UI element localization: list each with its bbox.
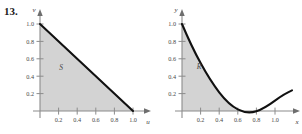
x-tick-label: 1.0 [129, 116, 137, 123]
y-tick-label: 1.0 [26, 20, 34, 27]
x-tick-label: 0.4 [215, 116, 223, 123]
x-tick-label: 0.8 [253, 116, 261, 123]
y-tick-label: 0.6 [168, 55, 176, 62]
y-tick-label: 0.4 [168, 73, 176, 80]
panel-right: 1.0 0.8 0.6 0.4 0.2 0.2 0.4 0.6 0.8 1.0 … [151, 0, 302, 134]
y-tick-label: 0.2 [168, 90, 176, 97]
x-tick-label: 0.2 [197, 116, 205, 123]
y-tick-label: 0.8 [168, 38, 176, 45]
chart-right: 1.0 0.8 0.6 0.4 0.2 0.2 0.4 0.6 0.8 1.0 … [151, 0, 302, 134]
x-tick-label: 0.8 [111, 116, 119, 123]
panel-left: 1.0 0.8 0.6 0.4 0.2 0.2 0.4 0.6 0.8 1.0 … [0, 0, 151, 134]
region-label-s: S [59, 63, 63, 72]
y-axis-label-right: y [173, 6, 178, 14]
x-tick-label: 0.4 [73, 116, 81, 123]
chart-left: 1.0 0.8 0.6 0.4 0.2 0.2 0.4 0.6 0.8 1.0 … [0, 0, 151, 134]
y-axis-arrow-right [179, 9, 184, 16]
region-fill-r [182, 24, 238, 111]
x-axis-arrow-right [293, 108, 300, 113]
y-tick-label: 1.0 [168, 20, 176, 27]
x-tick-label: 0.6 [234, 116, 242, 123]
x-tick-label: 1.0 [271, 116, 279, 123]
y-tick-label: 0.4 [26, 73, 34, 80]
figure-container: 13. 1.0 0.8 [0, 0, 302, 134]
y-tick-label: 0.6 [26, 55, 34, 62]
x-axis-arrow-left [144, 108, 151, 113]
y-tick-label: 0.2 [26, 90, 34, 97]
y-tick-label: 0.8 [26, 38, 34, 45]
x-tick-label: 0.6 [92, 116, 100, 123]
region-label-r: R [196, 62, 202, 71]
x-tick-label: 0.2 [55, 116, 63, 123]
y-axis-label-left: v [32, 6, 36, 14]
x-axis-label-right: x [294, 118, 299, 126]
y-axis-arrow-left [37, 9, 42, 16]
x-axis-label-left: u [146, 118, 150, 126]
